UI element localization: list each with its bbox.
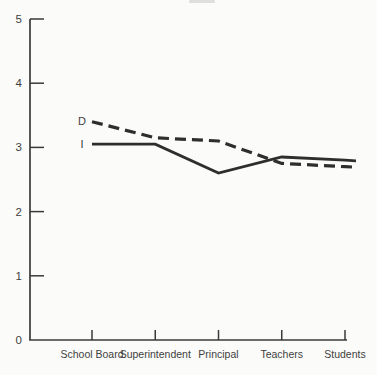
x-axis-category-label: Students: [324, 348, 365, 360]
scanned-figure-page: 012345School BoardSuperintendentPrincipa…: [0, 0, 377, 375]
line-chart: 012345School BoardSuperintendentPrincipa…: [0, 0, 377, 375]
y-axis-tick-label: 0: [16, 334, 22, 346]
series-label-D: D: [78, 115, 86, 127]
y-axis-tick-label: 5: [16, 13, 22, 25]
series-line-I: [92, 144, 356, 173]
y-axis-tick-label: 4: [16, 77, 23, 89]
y-axis-tick-label: 1: [16, 270, 22, 282]
y-axis-tick-label: 2: [16, 206, 22, 218]
series-label-I: I: [80, 138, 83, 150]
x-axis-category-label: Principal: [198, 348, 238, 360]
x-axis-category-label: Superintendent: [120, 348, 191, 360]
x-axis-category-label: Teachers: [260, 348, 303, 360]
x-axis-category-label: School Board: [60, 348, 123, 360]
y-axis-tick-label: 3: [16, 141, 22, 153]
